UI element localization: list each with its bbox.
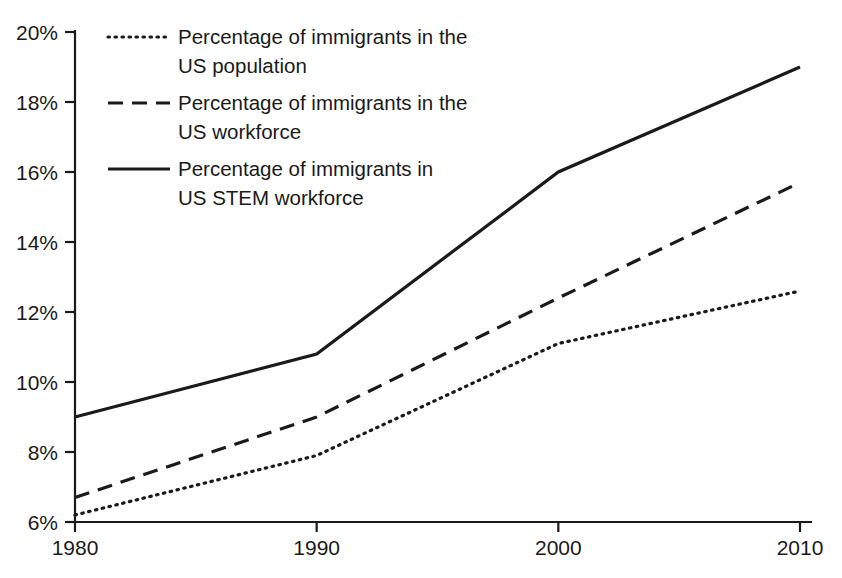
legend-label-line2: US workforce	[178, 120, 301, 143]
x-tick-label: 2010	[777, 536, 824, 559]
legend-label-line2: US STEM workforce	[178, 186, 364, 209]
y-tick-label: 18%	[16, 91, 58, 114]
y-tick-label: 10%	[16, 371, 58, 394]
y-tick-label: 8%	[28, 441, 58, 464]
y-tick-label: 12%	[16, 301, 58, 324]
y-tick-label: 6%	[28, 511, 58, 534]
x-tick-label: 1980	[52, 536, 99, 559]
legend-label-line1: Percentage of immigrants in the	[178, 25, 467, 48]
x-tick-label: 2000	[535, 536, 582, 559]
legend-label-line1: Percentage of immigrants in the	[178, 91, 467, 114]
legend-label-line1: Percentage of immigrants in	[178, 157, 433, 180]
legend-label-line2: US population	[178, 54, 307, 77]
line-chart: 6%8%10%12%14%16%18%20% 1980199020002010 …	[0, 0, 842, 578]
y-tick-label: 20%	[16, 21, 58, 44]
y-tick-label: 16%	[16, 161, 58, 184]
chart-background	[0, 0, 842, 578]
x-tick-label: 1990	[293, 536, 340, 559]
y-tick-label: 14%	[16, 231, 58, 254]
chart-canvas: 6%8%10%12%14%16%18%20% 1980199020002010 …	[0, 0, 842, 578]
